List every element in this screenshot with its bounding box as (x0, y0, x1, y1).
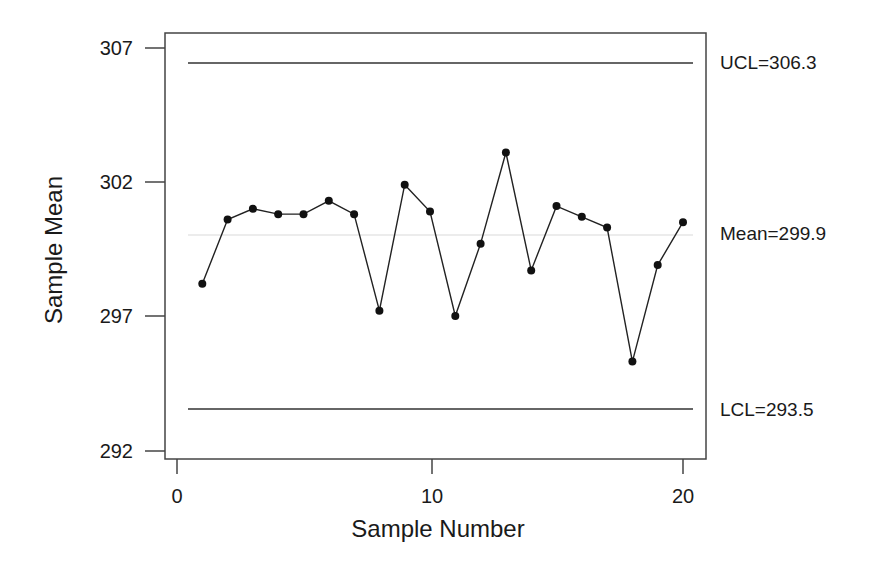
data-point-3 (249, 205, 257, 213)
data-point-2 (224, 216, 232, 224)
x-axis: 0 10 20 (171, 459, 694, 507)
data-point-1 (198, 280, 206, 288)
data-point-20 (679, 218, 687, 226)
data-point-7 (350, 210, 358, 218)
ucl-label: UCL=306.3 (720, 52, 817, 73)
y-axis: 307 302 297 292 (100, 37, 165, 462)
data-point-14 (527, 266, 535, 274)
x-tick-label-10: 10 (421, 485, 443, 507)
data-point-5 (300, 210, 308, 218)
data-point-11 (451, 312, 459, 320)
control-chart: 307 302 297 292 0 10 20 Sample Number Sa… (0, 0, 890, 574)
data-point-16 (578, 213, 586, 221)
y-tick-label-302: 302 (100, 171, 133, 193)
mean-label: Mean=299.9 (720, 223, 826, 244)
data-point-6 (325, 197, 333, 205)
y-tick-label-297: 297 (100, 305, 133, 327)
plot-frame (165, 33, 706, 459)
x-axis-title: Sample Number (351, 515, 524, 542)
y-tick-label-292: 292 (100, 440, 133, 462)
xbar-control-chart-svg: 307 302 297 292 0 10 20 Sample Number Sa… (0, 0, 890, 574)
data-point-10 (426, 207, 434, 215)
data-point-15 (553, 202, 561, 210)
data-point-17 (603, 224, 611, 232)
data-point-9 (401, 181, 409, 189)
lcl-label: LCL=293.5 (720, 399, 814, 420)
data-point-13 (502, 149, 510, 157)
data-point-18 (628, 358, 636, 366)
data-point-19 (654, 261, 662, 269)
y-axis-title: Sample Mean (40, 176, 67, 324)
y-tick-label-307: 307 (100, 37, 133, 59)
x-tick-label-0: 0 (171, 485, 182, 507)
data-point-4 (274, 210, 282, 218)
data-point-12 (477, 240, 485, 248)
data-point-8 (375, 307, 383, 315)
x-tick-label-20: 20 (672, 485, 694, 507)
